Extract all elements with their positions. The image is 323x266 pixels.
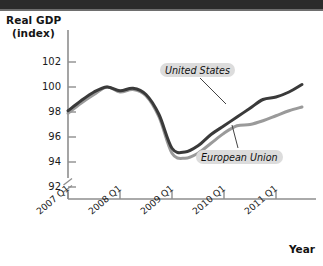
y-axis-title-line2: (index) xyxy=(6,27,61,40)
y-tick-label-94: 94 xyxy=(31,156,61,167)
y-tick-label-102: 102 xyxy=(31,56,61,67)
y-axis-title-line1: Real GDP xyxy=(6,14,61,27)
series-label-european-union: European Union xyxy=(196,150,283,164)
y-axis-title: Real GDP (index) xyxy=(6,14,61,39)
x-axis-title: Year xyxy=(289,243,315,255)
y-tick-label-98: 98 xyxy=(31,106,61,117)
leader-line-united-states xyxy=(200,78,226,104)
y-tick-label-100: 100 xyxy=(31,81,61,92)
y-tick-label-96: 96 xyxy=(31,131,61,142)
series-label-united-states: United States xyxy=(160,63,235,77)
real-gdp-index-line-chart: Real GDP (index) 102 100 98 96 94 92 200… xyxy=(0,0,323,266)
leader-line-european-union xyxy=(232,125,238,148)
